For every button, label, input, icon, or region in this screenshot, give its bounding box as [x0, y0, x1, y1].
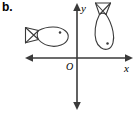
- fish-preimage-body: [37, 27, 68, 46]
- axes-group: y x O: [25, 2, 133, 110]
- x-axis-label: x: [123, 62, 129, 74]
- y-axis-bottom-arrow-icon: [73, 102, 81, 110]
- fish-image-body: [95, 13, 114, 49]
- fish-preimage-eye-dot: [59, 31, 62, 34]
- coordinate-plane-figure: y x O: [0, 0, 139, 113]
- x-axis-right-arrow-icon: [125, 54, 133, 62]
- fish-image-shape: [95, 3, 114, 49]
- origin-label: O: [66, 61, 73, 72]
- y-axis-top-arrow-icon: [73, 3, 81, 11]
- x-axis-left-arrow-icon: [25, 54, 33, 62]
- fish-image-eye-dot: [106, 42, 109, 45]
- y-axis-label: y: [80, 2, 86, 14]
- figure-container: b. y x O: [0, 0, 139, 113]
- fish-preimage-shape: [26, 27, 69, 46]
